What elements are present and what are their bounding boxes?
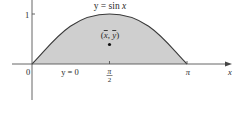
centroid-diagram: y = sin x (x, y) 1 0 y = 0 π 2 π x [0, 0, 244, 120]
origin-label: 0 [26, 67, 30, 77]
x-axis-arrow-icon [225, 62, 232, 67]
centroid-dot [108, 43, 111, 46]
y-tick-label-1: 1 [25, 10, 29, 20]
x-tick-label-half-pi-num: π [108, 67, 112, 76]
x-axis-label: x [227, 67, 232, 77]
x-tick-label-pi: π [186, 67, 191, 77]
centroid-label: (x, y) [101, 30, 120, 40]
x-tick-label-half-pi-den: 2 [108, 76, 112, 84]
curve-label: y = sin x [94, 1, 127, 11]
baseline-label: y = 0 [61, 67, 79, 77]
